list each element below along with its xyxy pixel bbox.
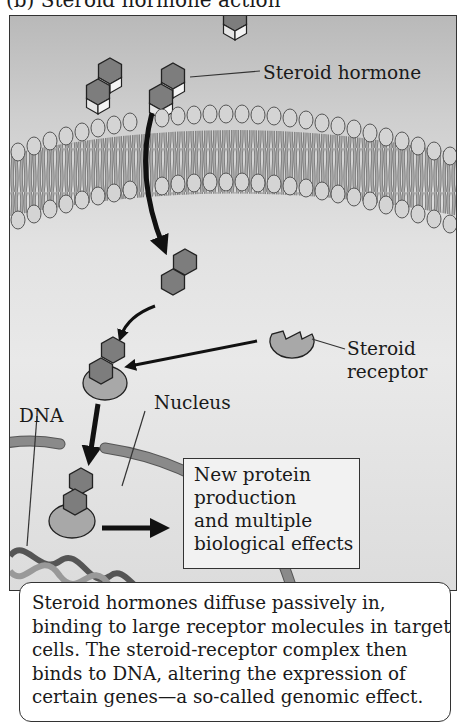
caption-line: Steroid hormones diffuse passively in, <box>32 591 450 615</box>
plasma-membrane <box>10 105 457 233</box>
effects-line: New protein <box>194 463 359 486</box>
caption-line: binding to large receptor molecules in t… <box>32 615 450 639</box>
caption-line: cells. The steroid-receptor complex then <box>32 638 450 662</box>
caption-box: Steroid hormones diffuse passively in, b… <box>19 582 451 722</box>
effects-line: biological effects <box>194 532 359 555</box>
figure-title: (b) Steroid hormone action <box>6 0 281 12</box>
effects-line: production <box>194 486 359 509</box>
label-dna: DNA <box>19 405 63 426</box>
nuclear-entry-arrow <box>90 404 98 456</box>
hormone-molecule-cytoplasm <box>162 249 197 295</box>
caption-line: certain genes—a so-called genomic effect… <box>32 685 450 709</box>
label-steroid-receptor-line2: receptor <box>347 361 427 382</box>
hormone-molecule-top <box>224 16 247 40</box>
caption-line: binds to DNA, altering the expression of <box>32 662 450 686</box>
diagram-frame: Steroid hormone Steroid receptor Nucleus… <box>9 15 457 591</box>
steroid-receptor-shape <box>270 331 314 358</box>
receptor-arrow <box>130 341 257 366</box>
hormone-receptor-complex <box>83 337 127 400</box>
hormone-molecule-left <box>87 58 122 114</box>
label-nucleus: Nucleus <box>154 392 231 413</box>
binding-arrow <box>121 306 155 336</box>
label-steroid-receptor-line1: Steroid <box>347 338 416 359</box>
effects-box: New protein production and multiple biol… <box>183 458 360 569</box>
effects-line: and multiple <box>194 509 359 532</box>
dna-bound-complex <box>49 468 95 538</box>
label-steroid-hormone: Steroid hormone <box>263 62 421 83</box>
